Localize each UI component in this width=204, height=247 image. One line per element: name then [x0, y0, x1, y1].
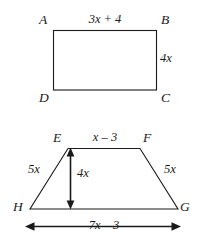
- trapezoid-height-label: 4x: [77, 167, 89, 180]
- trapezoid-height-arrow: [67, 148, 75, 210]
- trapezoid-vertex-label-e: E: [53, 131, 61, 145]
- trapezoid-left-leg-label: 5x: [28, 163, 40, 176]
- rectangle-vertex-label-b: B: [161, 13, 169, 27]
- trapezoid-right-leg-label: 5x: [164, 163, 176, 176]
- rectangle-top-side-label: 3x + 4: [89, 13, 122, 26]
- trapezoid-vertex-label-f: F: [143, 131, 151, 145]
- rectangle-outline: [54, 31, 157, 91]
- rectangle-abcd-shape: [54, 31, 157, 91]
- trapezoid-vertex-label-g: G: [180, 200, 190, 214]
- trapezoid-efgh-shape: [30, 149, 178, 210]
- rectangle-right-side-label: 4x: [160, 52, 172, 65]
- base-arrowhead-right: [172, 222, 182, 230]
- base-arrowhead-left: [25, 222, 35, 230]
- trapezoid-outline: [30, 149, 178, 210]
- rectangle-vertex-label-d: D: [39, 91, 49, 105]
- rectangle-vertex-label-c: C: [161, 91, 170, 105]
- trapezoid-vertex-label-h: H: [13, 200, 23, 214]
- height-arrowhead-down: [67, 201, 75, 210]
- geometry-figure-canvas: [0, 0, 204, 247]
- rectangle-vertex-label-a: A: [39, 13, 47, 27]
- trapezoid-base-label: 7x – 3: [89, 219, 120, 232]
- trapezoid-top-side-label: x – 3: [93, 131, 117, 144]
